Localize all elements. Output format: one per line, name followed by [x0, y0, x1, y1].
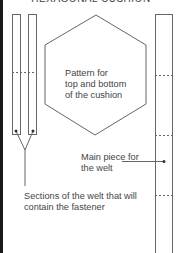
fastener-strip-right	[29, 15, 37, 135]
pointer-dot	[15, 130, 18, 133]
main-piece-label: Main piece for the welt	[81, 152, 139, 174]
pointer-dot	[163, 160, 166, 163]
pattern-drawing	[0, 0, 182, 253]
fastener-sections-label: Sections of the welt that will contain t…	[24, 191, 137, 213]
hexagon-label: Pattern for top and bottom of the cushio…	[65, 68, 126, 101]
pointer-dot	[32, 130, 35, 133]
fastener-strip-left	[13, 15, 21, 135]
